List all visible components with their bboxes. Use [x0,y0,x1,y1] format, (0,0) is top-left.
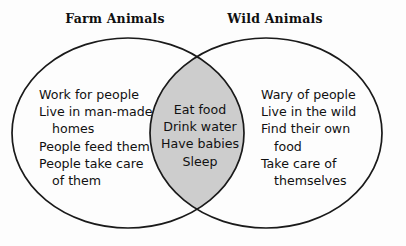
right-circle-line: Wary of people [261,86,381,103]
right-circle-line: Find their own [261,120,381,137]
intersection-line: Have babies [152,135,248,152]
right-circle-line: Live in the wild [261,103,381,120]
right-circle-line: themselves [261,172,381,189]
right-circle-line: Take care of [261,155,381,172]
intersection-line: Drink water [152,118,248,135]
right-circle-text: Wary of people Live in the wild Find the… [261,86,381,189]
left-circle-text: Work for people Live in man-made homes P… [39,86,161,189]
left-circle-line: Live in man-made [39,103,161,120]
intersection-line: Sleep [152,153,248,170]
venn-diagram-canvas: Farm Animals Wild Animals Work for peopl… [0,0,406,246]
intersection-line: Eat food [152,101,248,118]
left-circle-line: Work for people [39,86,161,103]
intersection-text: Eat food Drink water Have babies Sleep [152,101,248,170]
right-circle-line: food [261,138,381,155]
left-circle-line: of them [39,172,161,189]
left-circle-title: Farm Animals [48,11,182,26]
left-circle-line: homes [39,120,161,137]
left-circle-line: People feed them [39,138,161,155]
left-circle-line: People take care [39,155,161,172]
right-circle-title: Wild Animals [208,11,342,26]
